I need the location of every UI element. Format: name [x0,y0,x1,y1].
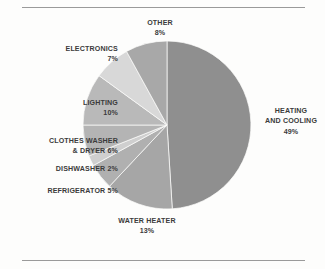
slice-label-dishwasher-line1: DISHWASHER 2% [0,164,118,174]
slice-label-heating-line1: HEATING [258,106,324,116]
pie-svg [82,40,252,210]
bottom-divider-rule [22,260,305,261]
slice-label-refrigerator-line1: REFRIGERATOR 5% [0,186,118,196]
slice-label-refrigerator: REFRIGERATOR 5% [0,186,118,196]
slice-label-clothes-line1: CLOTHES WASHER [0,136,118,146]
slice-label-heating-and-cooling: HEATING AND COOLING 49% [258,106,324,137]
slice-label-electronics: ELECTRONICS 7% [28,44,118,65]
slice-label-heating-line2: AND COOLING [258,116,324,126]
slice-label-clothes-washer-dryer: CLOTHES WASHER & DRYER 6% [0,136,118,157]
slice-label-lighting-percent: 10% [28,108,118,118]
slice-label-lighting-name: LIGHTING [28,98,118,108]
slice-label-water-heater: WATER HEATER 13% [92,216,202,237]
top-divider-rule [22,7,305,8]
slice-label-electronics-name: ELECTRONICS [28,44,118,54]
slice-label-water-heater-name: WATER HEATER [92,216,202,226]
pie-chart-page: OTHER 8% ELECTRONICS 7% LIGHTING 10% CLO… [0,0,325,269]
slice-label-clothes-line2: & DRYER 6% [0,146,118,156]
slice-label-other: OTHER 8% [120,18,200,39]
slice-label-water-heater-percent: 13% [92,226,202,236]
slice-label-dishwasher: DISHWASHER 2% [0,164,118,174]
slice-label-lighting: LIGHTING 10% [28,98,118,119]
slice-label-heating-percent: 49% [258,127,324,137]
slice-label-electronics-percent: 7% [28,54,118,64]
pie-chart [82,40,252,210]
pie-slice-heating-and-cooling [167,41,251,209]
slice-label-other-name: OTHER [120,18,200,28]
slice-label-other-percent: 8% [120,28,200,38]
